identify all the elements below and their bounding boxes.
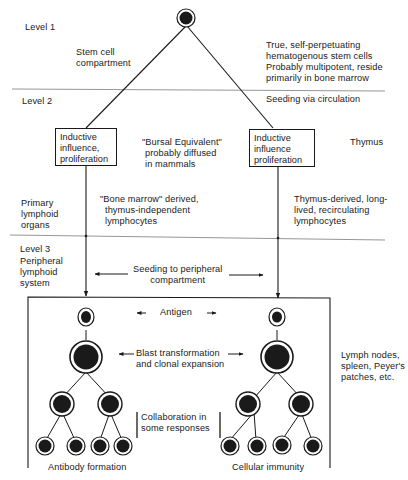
level-3-label: Level 3 bbox=[20, 244, 50, 255]
antibody-formation-label: Antibody formation bbox=[48, 462, 126, 473]
divider-level1-level2 bbox=[12, 89, 385, 91]
peripheral-lymphoid-system-label: Peripheral lymphoid system bbox=[20, 256, 63, 289]
antigen-label: Antigen bbox=[160, 307, 192, 318]
level-1-label: Level 1 bbox=[25, 22, 55, 33]
stem-cell-icon bbox=[177, 9, 195, 27]
cellular-immunity-label: Cellular immunity bbox=[232, 462, 304, 473]
thymus-label: Thymus bbox=[350, 137, 383, 148]
bursal-equivalent-label: "Bursal Equivalent" probably diffused in… bbox=[142, 137, 222, 170]
inductive-box-right: Inductive influence proliferation bbox=[249, 129, 315, 167]
effector-cells-icon bbox=[36, 436, 322, 455]
stem-cell-compartment-label: Stem cell compartment bbox=[76, 47, 131, 69]
inductive-box-left: Inductive influence, proliferation bbox=[55, 128, 117, 166]
primary-lymphoid-organs-label: Primary lymphoid organs bbox=[21, 198, 59, 231]
thymus-lymphocytes-label: Thymus-derived, long- lived, recirculati… bbox=[294, 194, 388, 227]
blast-transformation-label: Blast transformation and clonal expansio… bbox=[136, 348, 224, 370]
blast-cell-right-icon bbox=[261, 341, 293, 373]
seeding-peripheral-label: Seeding to peripheral compartment bbox=[133, 264, 222, 286]
lymph-nodes-label: Lymph nodes, spleen, Peyer's patches, et… bbox=[341, 350, 405, 383]
seeding-via-circulation-label: Seeding via circulation bbox=[266, 94, 360, 105]
small-lymphocyte-left-icon bbox=[78, 308, 94, 326]
blast-cell-left-icon bbox=[70, 341, 102, 373]
line-stem-to-left bbox=[86, 26, 186, 128]
small-lymphocyte-right-icon bbox=[269, 308, 285, 326]
level-2-label: Level 2 bbox=[22, 96, 52, 107]
divider-level2-level3 bbox=[10, 235, 385, 240]
collaboration-label: Collaboration in some responses bbox=[141, 412, 210, 434]
bone-marrow-lymphocytes-label: "Bone marrow" derived, thymus-independen… bbox=[100, 194, 199, 227]
line-stem-to-right bbox=[187, 26, 273, 128]
stem-cell-description: True, self-perpetuating hematogenous ste… bbox=[266, 40, 383, 84]
